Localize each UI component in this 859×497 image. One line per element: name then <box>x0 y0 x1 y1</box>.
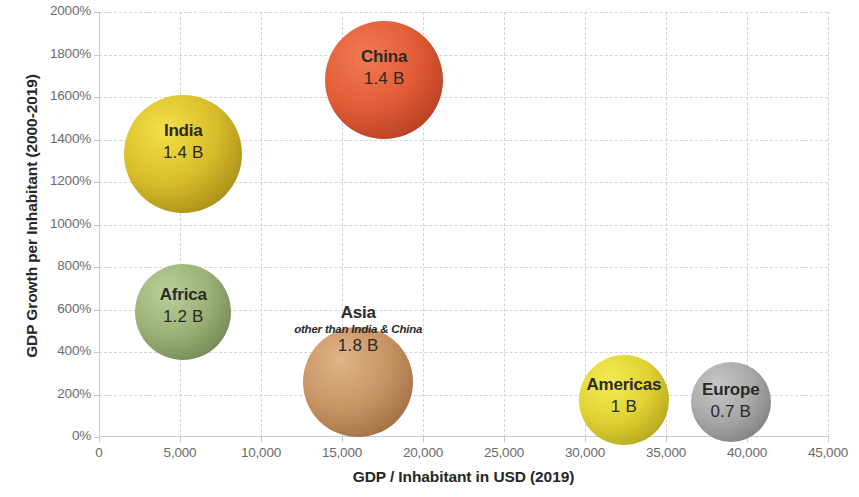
tick-mark-x <box>342 437 343 442</box>
gridline-horizontal <box>99 267 828 268</box>
tick-mark-x <box>828 437 829 442</box>
tick-mark-x <box>585 437 586 442</box>
tick-mark-x <box>99 437 100 442</box>
tick-mark-x <box>180 437 181 442</box>
y-tick-label-text: 1400% <box>50 131 91 146</box>
x-tick-label-text: 45,000 <box>808 445 848 460</box>
plot-area: India1.4 BChina1.4 BAfrica1.2 BAsiaother… <box>99 12 828 437</box>
tick-mark-y <box>94 395 99 396</box>
tick-mark-y <box>94 55 99 56</box>
x-tick-label-text: 30,000 <box>565 445 605 460</box>
x-tick-label-text: 40,000 <box>727 445 767 460</box>
y-tick-label-text: 1200% <box>50 173 91 188</box>
tick-mark-x <box>666 437 667 442</box>
y-tick-label-text: 1000% <box>50 216 91 231</box>
gridline-horizontal <box>99 225 828 226</box>
tick-mark-y <box>94 140 99 141</box>
y-tick-label-text: 200% <box>57 386 91 401</box>
x-tick-label-text: 10,000 <box>241 445 281 460</box>
y-tick-label-text: 800% <box>57 258 91 273</box>
tick-mark-y <box>94 352 99 353</box>
gridline-vertical <box>828 12 829 437</box>
tick-mark-x <box>504 437 505 442</box>
tick-mark-x <box>261 437 262 442</box>
tick-mark-y <box>94 310 99 311</box>
y-tick-label-text: 400% <box>57 343 91 358</box>
tick-mark-y <box>94 225 99 226</box>
y-axis-title: GDP Growth per Inhabitant (2000-2019) <box>23 6 41 426</box>
bubble-china[interactable] <box>325 21 443 139</box>
x-tick-label-text: 15,000 <box>322 445 362 460</box>
y-tick-label-text: 2000% <box>50 3 91 18</box>
tick-mark-y <box>94 267 99 268</box>
x-axis-title: GDP / Inhabitant in USD (2019) <box>99 468 828 486</box>
tick-mark-y <box>94 182 99 183</box>
tick-mark-y <box>94 97 99 98</box>
bubble-africa[interactable] <box>135 264 231 360</box>
bubble-name-text: Asia <box>294 303 422 323</box>
bubble-americas[interactable] <box>579 355 669 445</box>
gridline-horizontal <box>99 55 828 56</box>
x-tick-label-text: 5,000 <box>164 445 197 460</box>
bubble-asia[interactable] <box>303 327 413 437</box>
gridline-vertical <box>261 12 262 437</box>
x-tick-label-text: 25,000 <box>484 445 524 460</box>
bubble-chart: GDP Growth per Inhabitant (2000-2019) GD… <box>0 0 859 497</box>
y-axis-line <box>99 12 100 437</box>
x-tick-label-text: 0 <box>95 445 102 460</box>
y-tick-label-text: 1600% <box>50 88 91 103</box>
y-tick-label-text: 0% <box>72 428 91 443</box>
gridline-vertical <box>504 12 505 437</box>
gridline-horizontal <box>99 97 828 98</box>
gridline-vertical <box>180 12 181 437</box>
y-tick-label-text: 600% <box>57 301 91 316</box>
gridline-vertical <box>666 12 667 437</box>
bubble-europe[interactable] <box>691 362 771 442</box>
tick-mark-x <box>423 437 424 442</box>
x-tick-label-text: 20,000 <box>403 445 443 460</box>
gridline-horizontal <box>99 12 828 13</box>
bubble-india[interactable] <box>124 95 242 213</box>
y-tick-label-text: 1800% <box>50 46 91 61</box>
x-tick-label-text: 35,000 <box>646 445 686 460</box>
gridline-vertical <box>585 12 586 437</box>
tick-mark-y <box>94 12 99 13</box>
